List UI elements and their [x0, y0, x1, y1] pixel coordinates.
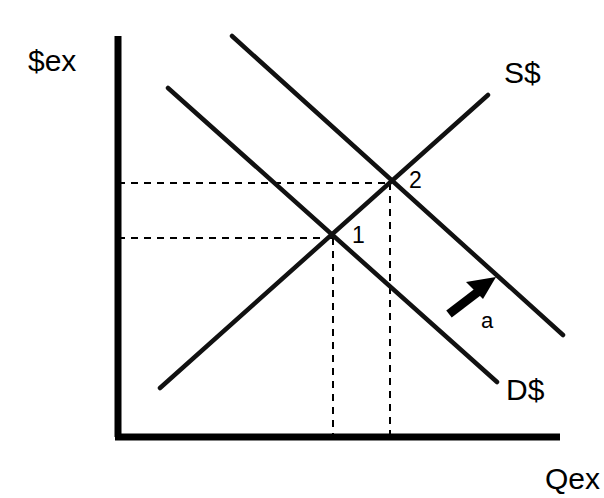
shift-arrow-label: a [481, 310, 493, 332]
y-axis-label: $ex [28, 46, 76, 76]
supply-curve-label: S$ [504, 58, 541, 88]
demand-curve-label: D$ [506, 375, 544, 405]
curves-group [160, 36, 563, 388]
x-axis-label: Qex [545, 464, 600, 494]
equilibrium-2-label: 2 [409, 169, 422, 192]
supply-curve [160, 95, 488, 388]
diagram-canvas: $ex Qex S$ D$ 1 2 a [0, 0, 604, 498]
equilibrium-1-label: 1 [352, 224, 365, 247]
